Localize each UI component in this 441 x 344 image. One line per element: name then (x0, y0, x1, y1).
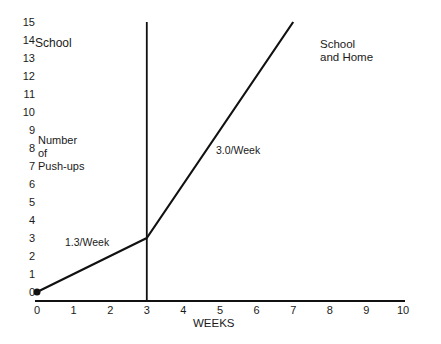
push-ups-line (37, 22, 293, 292)
y-tick-label: 4 (29, 214, 35, 226)
x-tick-label: 8 (327, 304, 333, 316)
y-tick-label: 15 (23, 16, 35, 28)
y-axis-label-line1: Number (38, 134, 77, 146)
phase-label-school-home-line2: and Home (320, 51, 373, 63)
x-tick-label: 2 (107, 304, 113, 316)
rate-label-2: 3.0/Week (216, 144, 260, 156)
x-tick-label: 1 (71, 304, 77, 316)
x-axis-label: WEEKS (193, 317, 235, 329)
y-axis-label-line3: Push-ups (38, 160, 84, 172)
push-ups-chart: 0123456789100123456789101112131415 Schoo… (0, 0, 441, 344)
chart-plot: 0123456789100123456789101112131415 (0, 0, 441, 344)
x-tick-label: 6 (254, 304, 260, 316)
rate-label-1: 1.3/Week (65, 236, 109, 248)
y-tick-label: 7 (29, 160, 35, 172)
phase-label-school: School (35, 37, 72, 49)
y-tick-label: 9 (29, 124, 35, 136)
y-tick-label: 8 (29, 142, 35, 154)
y-tick-label: 1 (29, 268, 35, 280)
x-tick-label: 7 (290, 304, 296, 316)
y-tick-label: 10 (23, 106, 35, 118)
y-tick-label: 12 (23, 70, 35, 82)
y-tick-label: 14 (23, 34, 35, 46)
x-tick-label: 5 (217, 304, 223, 316)
y-tick-label: 6 (29, 178, 35, 190)
x-tick-label: 4 (180, 304, 186, 316)
phase-label-school-home-line1: School (320, 38, 355, 50)
x-tick-label: 0 (34, 304, 40, 316)
x-tick-label: 3 (144, 304, 150, 316)
start-point-marker (34, 289, 41, 296)
x-tick-label: 9 (363, 304, 369, 316)
y-tick-label: 3 (29, 232, 35, 244)
y-tick-label: 5 (29, 196, 35, 208)
y-tick-label: 13 (23, 52, 35, 64)
y-tick-label: 2 (29, 250, 35, 262)
y-tick-label: 11 (24, 88, 35, 100)
y-axis-label-line2: of (38, 147, 47, 159)
x-tick-label: 10 (397, 304, 409, 316)
